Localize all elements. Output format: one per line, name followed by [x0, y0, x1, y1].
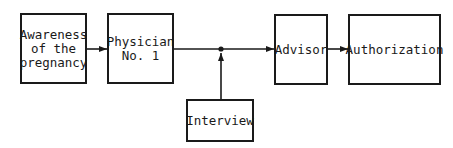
node-awareness-label: Awareness of the pregnancy	[20, 28, 88, 70]
node-advisor: Advisor	[274, 14, 328, 85]
node-interview-label: Interview	[186, 114, 254, 128]
node-physician-label: Physician No. 1	[107, 35, 175, 63]
node-advisor-label: Advisor	[275, 43, 328, 57]
node-physician: Physician No. 1	[107, 13, 174, 84]
node-authorization: Authorization	[348, 14, 441, 85]
node-authorization-label: Authorization	[346, 43, 444, 57]
node-interview: Interview	[186, 99, 254, 142]
node-awareness: Awareness of the pregnancy	[20, 13, 87, 84]
junction-dot	[218, 46, 223, 51]
